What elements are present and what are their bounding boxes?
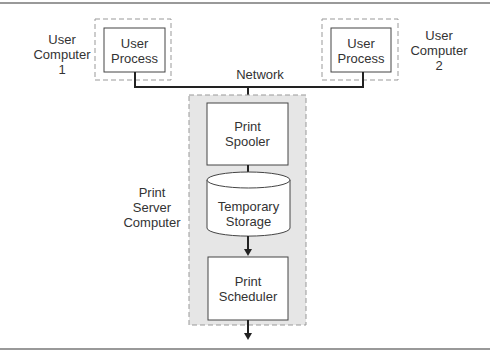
temporary-storage-label: Temporary Storage — [207, 199, 290, 229]
print-scheduler-label: Print Scheduler — [208, 274, 288, 304]
arrowhead-icon — [244, 333, 252, 340]
user-computer-1-label: User Computer 1 — [28, 32, 96, 77]
user-process-1-label: User Process — [104, 36, 165, 66]
user-computer-2-label: User Computer 2 — [405, 28, 473, 73]
cylinder-top — [207, 172, 290, 188]
print-server-label: Print Server Computer — [120, 185, 184, 230]
print-spooler-label: Print Spooler — [207, 119, 288, 149]
network-label: Network — [220, 67, 300, 82]
user-process-2-label: User Process — [331, 36, 391, 66]
